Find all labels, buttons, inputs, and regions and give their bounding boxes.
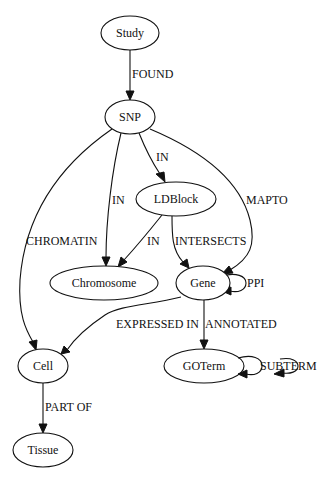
edge-snp-cell: CHROMATIN [20,129,112,350]
edge-snp-ldblock: IN [139,133,169,182]
edge-label-chromatin: CHROMATIN [26,234,98,248]
edge-label-in: IN [147,234,160,248]
node-tissue[interactable]: Tissue [13,433,73,467]
edge-study-snp: FOUND [126,50,174,100]
node-chromosome[interactable]: Chromosome [50,266,158,300]
graph-diagram: FOUND IN IN MAPTO CHROMATIN IN INTERSECT… [0,0,333,484]
edge-label-in: IN [112,193,125,207]
node-gene[interactable]: Gene [176,266,230,300]
edge-ldblock-gene: INTERSECTS [172,216,246,268]
edge-label-subterm: SUBTERM [260,359,317,373]
node-label: SNP [119,110,141,124]
edge-label-found: FOUND [132,67,174,81]
edge-label-mapto: MAPTO [246,193,288,207]
edge-label-ppi: PPI [247,276,264,290]
edge-label-part-of: PART OF [45,400,92,414]
node-label: Chromosome [72,276,137,290]
edge-label-intersects: INTERSECTS [175,234,246,248]
node-goterm[interactable]: GOTerm [164,349,244,383]
node-label: Tissue [28,443,59,457]
edge-snp-chromosome: IN [102,133,125,266]
node-study[interactable]: Study [101,16,159,50]
node-cell[interactable]: Cell [18,349,68,383]
node-label: Cell [33,359,54,373]
edge-cell-tissue: PART OF [39,383,92,433]
node-label: GOTerm [183,359,226,373]
edge-gene-goterm: ANNOTATED [200,300,277,349]
node-label: Gene [190,276,215,290]
edge-label-in: IN [156,150,169,164]
node-label: LDBlock [154,192,199,206]
node-ldblock[interactable]: LDBlock [136,182,216,216]
edge-label-annotated: ANNOTATED [205,317,277,331]
graph-svg: FOUND IN IN MAPTO CHROMATIN IN INTERSECT… [0,0,333,484]
node-snp[interactable]: SNP [105,100,155,134]
node-label: Study [116,26,144,40]
edge-ldblock-chromosome: IN [118,215,162,267]
edge-gene-cell: EXPRESSED IN [61,297,199,354]
edge-label-expressed-in: EXPRESSED IN [116,317,199,331]
